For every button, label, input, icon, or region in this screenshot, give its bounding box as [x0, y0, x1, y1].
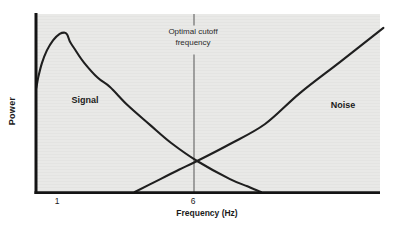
y-axis-label: Power [7, 66, 17, 156]
optimal-cutoff-annotation-line2: frequency [143, 37, 243, 48]
signal-curve [36, 33, 261, 192]
noise-series-label: Noise [318, 100, 368, 110]
optimal-cutoff-annotation: Optimal cutoff frequency [143, 26, 243, 48]
optimal-cutoff-annotation-line1: Optimal cutoff [143, 26, 243, 37]
figure-signal-noise-chart: Power Optimal cutoff frequency Signal No… [0, 0, 400, 227]
x-tick-label-1: 1 [47, 196, 67, 206]
x-axis-label: Frequency (Hz) [147, 208, 267, 218]
x-tick-label-6: 6 [183, 196, 203, 206]
signal-series-label: Signal [60, 95, 110, 105]
